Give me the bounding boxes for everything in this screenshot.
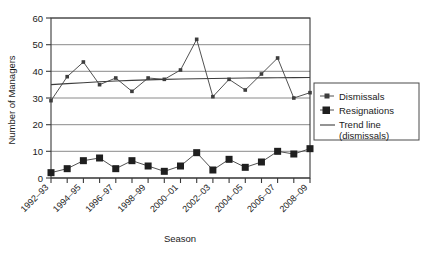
data-point-marker (130, 90, 134, 94)
data-point-marker (193, 149, 200, 156)
data-point-marker (48, 169, 55, 176)
data-point-marker (128, 157, 135, 164)
data-point-marker (290, 151, 297, 158)
data-point-marker (260, 72, 264, 76)
series-dismissals (49, 38, 312, 103)
chart-container: Number of Managers 60 50 40 30 20 10 0 (0, 0, 423, 257)
data-point-marker (146, 76, 150, 80)
y-tick-label: 60 (32, 13, 43, 24)
x-axis-title: Season (164, 233, 196, 244)
series-resignations (48, 145, 314, 176)
legend-label: Resignations (339, 105, 394, 116)
x-tick-label: 2006–07 (245, 182, 277, 214)
data-point-marker (145, 163, 152, 170)
y-tick-label: 0 (38, 173, 43, 184)
data-point-marker (96, 155, 103, 162)
legend-label: Trend line (339, 119, 381, 130)
y-axis-ticks (46, 18, 51, 178)
data-point-marker (209, 167, 216, 174)
y-axis-title: Number of Managers (6, 55, 17, 144)
data-point-marker (112, 165, 119, 172)
series-trend-line-dismissals (51, 77, 310, 84)
series-path (51, 77, 310, 84)
x-axis-tick-labels: 1992–93 1994–95 1996–97 1998–99 2000–01 … (19, 182, 310, 214)
data-point-marker (276, 56, 280, 60)
data-point-marker (243, 88, 247, 92)
data-point-marker (65, 75, 69, 79)
data-point-marker (64, 165, 71, 172)
data-point-marker (82, 60, 86, 64)
data-point-marker (80, 157, 87, 164)
y-axis-tick-labels: 60 50 40 30 20 10 0 (32, 13, 43, 184)
x-tick-label: 2008–09 (278, 182, 310, 214)
x-tick-label: 2002–03 (180, 182, 212, 214)
y-tick-label: 50 (32, 39, 43, 50)
x-tick-label: 1996–97 (83, 182, 115, 214)
data-point-marker (226, 156, 233, 163)
x-tick-label: 1998–99 (116, 182, 148, 214)
data-point-marker (98, 83, 102, 87)
data-point-marker (274, 148, 281, 155)
legend-label: Dismissals (339, 91, 385, 102)
data-point-marker (114, 76, 118, 80)
y-tick-label: 10 (32, 146, 43, 157)
data-point-marker (179, 68, 183, 72)
legend-label-secondary: (dismissals) (339, 130, 389, 141)
data-series-layer (48, 38, 314, 177)
x-tick-label: 2000–01 (148, 182, 180, 214)
data-point-marker (307, 145, 314, 152)
data-point-marker (292, 96, 296, 100)
large-square-marker-icon (323, 107, 331, 115)
y-tick-label: 40 (32, 66, 43, 77)
y-tick-label: 30 (32, 93, 43, 104)
small-square-marker-icon (325, 94, 330, 99)
data-point-marker (49, 99, 53, 103)
y-tick-label: 20 (32, 119, 43, 130)
data-point-marker (258, 159, 265, 166)
data-point-marker (195, 38, 199, 42)
x-axis-ticks (51, 178, 310, 183)
data-point-marker (211, 95, 215, 99)
data-point-marker (161, 168, 168, 175)
x-tick-label: 1992–93 (19, 182, 51, 214)
data-point-marker (177, 163, 184, 170)
gridlines (51, 18, 310, 151)
x-tick-label: 2004–05 (213, 182, 245, 214)
legend: Dismissals Resignations Trend line (dism… (314, 83, 419, 141)
x-tick-label: 1994–95 (51, 182, 83, 214)
data-point-marker (242, 164, 249, 171)
data-point-marker (308, 91, 312, 95)
chart-svg: Number of Managers 60 50 40 30 20 10 0 (0, 0, 423, 257)
